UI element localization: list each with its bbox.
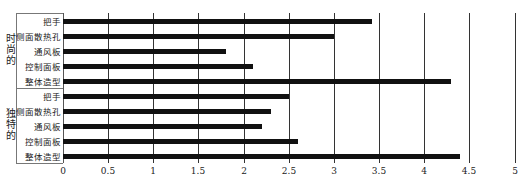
x-tick-label: 2 (232, 166, 256, 176)
bar (63, 49, 226, 54)
category-label: 控制面板 (1, 62, 61, 72)
bracket-bottom (16, 163, 63, 164)
horizontal-bar-chart: 00.511.522.533.544.55时尚的把手侧面散热孔通风板控制面板整体… (0, 0, 526, 189)
bar (63, 109, 271, 114)
x-tick-label: 5 (503, 166, 526, 176)
bar (63, 64, 253, 69)
gridline (469, 13, 470, 163)
category-label: 侧面散热孔 (1, 107, 61, 117)
x-tick-label: 0.5 (96, 166, 120, 176)
bar (63, 94, 289, 99)
category-label: 控制面板 (1, 137, 61, 147)
category-label: 通风板 (1, 47, 61, 57)
category-label: 通风板 (1, 122, 61, 132)
bar (63, 139, 298, 144)
bracket-divider (16, 88, 63, 89)
x-tick-label: 0 (51, 166, 75, 176)
category-label: 把手 (1, 17, 61, 27)
x-tick-label: 1.5 (186, 166, 210, 176)
x-tick-label: 2.5 (277, 166, 301, 176)
x-tick-label: 3.5 (367, 166, 391, 176)
category-label: 整体造型 (1, 152, 61, 162)
gridline (515, 13, 516, 163)
x-tick-label: 3 (322, 166, 346, 176)
x-tick-label: 1 (141, 166, 165, 176)
bar (63, 34, 334, 39)
category-label: 整体造型 (1, 77, 61, 87)
x-tick-label: 4 (412, 166, 436, 176)
x-tick-label: 4.5 (457, 166, 481, 176)
bracket-top (16, 13, 63, 14)
bar (63, 19, 372, 24)
category-label: 把手 (1, 92, 61, 102)
category-label: 侧面散热孔 (1, 32, 61, 42)
bar (63, 154, 460, 159)
bar (63, 124, 262, 129)
gridline (379, 13, 380, 163)
gridline (334, 13, 335, 163)
gridline (424, 13, 425, 163)
bar (63, 79, 451, 84)
